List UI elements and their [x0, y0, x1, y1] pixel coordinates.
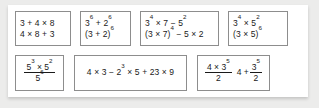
- exponent: 6: [111, 24, 115, 31]
- fraction-denominator: 56: [33, 73, 45, 83]
- fraction-denominator: 2: [214, 73, 223, 83]
- operand: 4 × 3: [207, 62, 226, 72]
- exponent: 4: [171, 24, 175, 31]
- exponent: 3: [31, 57, 34, 64]
- expression-box-4-line-1: 34 × 52: [233, 18, 260, 29]
- fraction: 53 × 52 56: [24, 62, 54, 83]
- base: 3: [252, 62, 257, 72]
- fraction-numerator: 4 × 35: [205, 62, 232, 73]
- exponent: 2: [256, 13, 260, 20]
- operand: × 5 + 23 × 9: [125, 67, 174, 77]
- fraction-numerator: 35: [250, 62, 262, 73]
- exponent: 6: [108, 13, 112, 20]
- exponent: 4: [150, 13, 154, 20]
- exponent: 2: [183, 13, 187, 20]
- expression-row-1: 3 + 4 × 8 4 × 8 + 3 36 + 26 (3 + 2)6 34 …: [15, 11, 301, 49]
- base: (3 + 2): [85, 29, 111, 39]
- expression-box-2-line-1: 36 + 26: [85, 18, 112, 29]
- fraction-first: 4 × 35 2: [205, 62, 232, 83]
- exponent: 3: [121, 62, 125, 69]
- expression-box-2-line-2: (3 + 2)6: [85, 29, 114, 40]
- expression-box-3[interactable]: 34 × 7 − 52 (3 × 7)4 − 5 × 2: [140, 11, 219, 46]
- fraction-denominator: 2: [251, 73, 260, 83]
- expression-box-1-line-2: 4 × 8 + 3: [20, 29, 54, 40]
- exponent: 6: [90, 13, 94, 20]
- exponent: 2: [49, 57, 52, 64]
- leading-term: 4 +: [237, 67, 249, 78]
- expression-box-1-line-1: 3 + 4 × 8: [20, 18, 54, 29]
- expression-box-1[interactable]: 3 + 4 × 8 4 × 8 + 3: [15, 11, 71, 46]
- fraction-second: 352: [250, 62, 262, 83]
- expression-box-5[interactable]: 53 × 52 56: [15, 55, 64, 91]
- base: (3 × 7): [145, 29, 171, 39]
- expression-box-6-line-1: 4 × 3 − 23 × 5 + 23 × 9: [87, 67, 174, 78]
- base: (3 × 5): [233, 29, 259, 39]
- exponent: 6: [40, 68, 43, 75]
- operator: +: [93, 18, 103, 28]
- expression-box-4-line-2: (3 × 5)6: [233, 29, 262, 40]
- expression-box-3-line-1: 34 × 7 − 52: [145, 18, 187, 29]
- expression-box-7[interactable]: 4 × 35 2 4 + 352: [197, 55, 270, 91]
- exponent: 6: [259, 24, 263, 31]
- expression-box-4[interactable]: 34 × 52 (3 × 5)6: [228, 11, 288, 46]
- operand: × 5: [241, 18, 256, 28]
- operand: × 7 − 5: [153, 18, 183, 28]
- operand: 4 × 3 − 2: [87, 67, 121, 77]
- exponent: 5: [226, 57, 229, 64]
- expression-rows: 3 + 4 × 8 4 × 8 + 3 36 + 26 (3 + 2)6 34 …: [8, 5, 308, 97]
- expression-box-2[interactable]: 36 + 26 (3 + 2)6: [80, 11, 131, 46]
- expression-box-3-line-2: (3 × 7)4 − 5 × 2: [145, 29, 204, 40]
- operand: − 5 × 2: [174, 29, 204, 39]
- worksheet-card: 3 + 4 × 8 4 × 8 + 3 36 + 26 (3 + 2)6 34 …: [8, 5, 308, 97]
- expression-sum-with-fraction: 4 + 352: [237, 62, 263, 83]
- expression-box-6[interactable]: 4 × 3 − 23 × 5 + 23 × 9: [74, 55, 187, 91]
- expression-row-2: 53 × 52 56 4 × 3 − 23 × 5 + 23 × 9 4 × 3…: [15, 55, 301, 93]
- exponent: 4: [238, 13, 242, 20]
- exponent: 5: [257, 57, 260, 64]
- outer-frame: 3 + 4 × 8 4 × 8 + 3 36 + 26 (3 + 2)6 34 …: [0, 0, 319, 108]
